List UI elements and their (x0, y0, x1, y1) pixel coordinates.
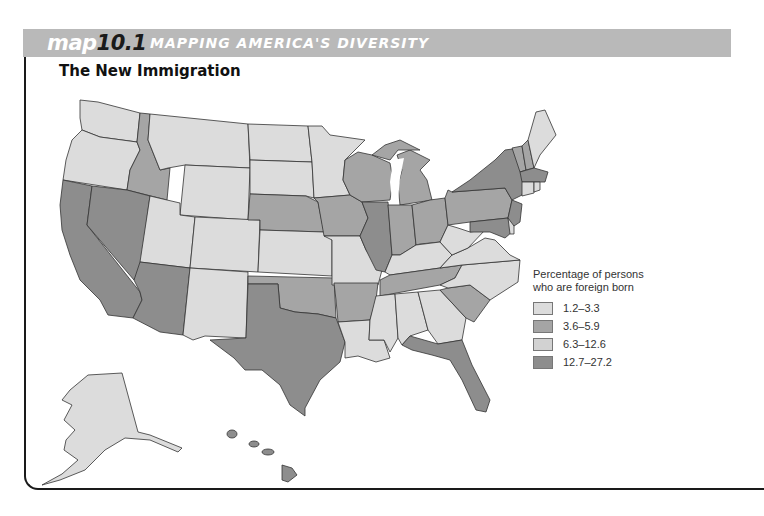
state-rhode-island (534, 182, 540, 192)
legend-title: Percentage of persons who are foreign bo… (533, 268, 644, 294)
state-north-dakota (248, 124, 312, 162)
state-maine (528, 110, 556, 168)
state-new-mexico (183, 268, 248, 340)
legend-label: 1.2–3.3 (563, 302, 600, 314)
legend-item: 3.6–5.9 (533, 317, 644, 335)
state-michigan (397, 150, 432, 205)
state-colorado (190, 217, 260, 272)
legend-swatch (533, 320, 553, 333)
hawaii-big-island (282, 465, 297, 482)
legend-label: 3.6–5.9 (563, 320, 600, 332)
state-wyoming (180, 165, 250, 220)
hawaii-island-2 (249, 441, 259, 447)
state-florida (402, 336, 490, 412)
legend-title-line1: Percentage of persons (533, 268, 644, 281)
hawaii-island-3 (262, 449, 274, 455)
hawaii-island-1 (227, 430, 237, 438)
state-alaska (42, 373, 182, 485)
state-arizona (133, 262, 190, 335)
legend-swatch (533, 302, 553, 315)
state-wisconsin (343, 152, 393, 202)
legend-swatch (533, 338, 553, 351)
legend: Percentage of persons who are foreign bo… (533, 268, 644, 371)
legend-item: 12.7–27.2 (533, 353, 644, 371)
legend-label: 12.7–27.2 (563, 356, 612, 368)
legend-item: 1.2–3.3 (533, 299, 644, 317)
state-kansas (258, 230, 332, 276)
state-south-dakota (250, 160, 314, 198)
legend-swatch (533, 356, 553, 369)
state-montana (148, 114, 250, 170)
legend-title-line2: who are foreign born (533, 281, 644, 294)
legend-label: 6.3–12.6 (563, 338, 606, 350)
legend-item: 6.3–12.6 (533, 335, 644, 353)
state-connecticut (522, 182, 534, 196)
